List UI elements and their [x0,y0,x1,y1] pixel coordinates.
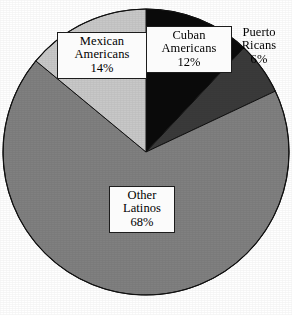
pie-label-puerto-ricans-line2: Ricans [228,39,290,52]
pie-label-cuban-americans-line1: Cuban [152,29,226,42]
pie-label-cuban-americans-line2: Americans [152,42,226,55]
pie-label-mexican-americans-value: 14% [63,62,141,75]
pie-label-mexican-americans-line2: Americans [63,48,141,61]
pie-label-other-latinos-line2: Latinos [115,202,169,215]
pie-chart-figure: Mexican Americans 14% Cuban Americans 12… [0,0,292,315]
pie-label-mexican-americans[interactable]: Mexican Americans 14% [57,32,147,79]
pie-label-puerto-ricans-line1: Puerto [228,26,290,39]
pie-label-cuban-americans[interactable]: Cuban Americans 12% [146,26,232,73]
pie-label-other-latinos[interactable]: Other Latinos 68% [109,186,175,233]
pie-label-other-latinos-value: 68% [115,216,169,229]
pie-label-other-latinos-line1: Other [115,189,169,202]
pie-label-puerto-ricans[interactable]: Puerto Ricans 6% [228,26,290,66]
pie-label-cuban-americans-value: 12% [152,56,226,69]
pie-label-mexican-americans-line1: Mexican [63,35,141,48]
pie-label-puerto-ricans-value: 6% [228,53,290,66]
